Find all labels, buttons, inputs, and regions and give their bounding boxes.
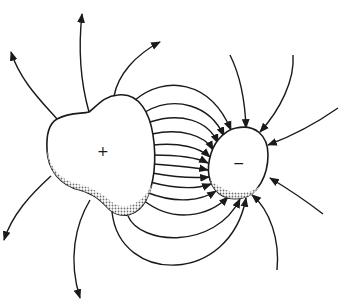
- plus-sign: +: [97, 143, 109, 159]
- minus-sign: −: [233, 155, 245, 171]
- negative-conductor: −: [208, 127, 268, 199]
- positive-conductor: +: [47, 95, 155, 215]
- field-lines-diagram: + −: [0, 0, 361, 308]
